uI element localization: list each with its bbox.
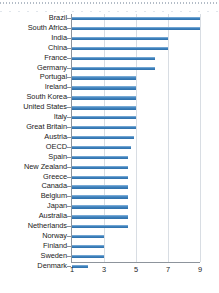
y-axis-tick <box>67 196 71 197</box>
category-label-austria: Austria <box>0 132 67 142</box>
category-label-sweden: Sweden <box>0 251 67 261</box>
bar-france <box>72 57 155 60</box>
x-tick-label-7: 7 <box>158 265 178 274</box>
y-axis-tick <box>67 18 71 19</box>
y-axis-tick <box>67 87 71 88</box>
bar-italy <box>72 116 136 119</box>
bar-germany <box>72 67 155 70</box>
y-axis-tick <box>67 167 71 168</box>
bar-austria <box>72 136 134 139</box>
bar-sweden <box>72 255 104 258</box>
bar-netherlands <box>72 225 128 228</box>
bar-brazil <box>72 17 200 20</box>
y-axis-tick <box>67 117 71 118</box>
bar-australia <box>72 215 128 218</box>
scan-artifact-secondary <box>0 11 219 12</box>
category-label-great-britain: Great Britain <box>0 122 67 132</box>
bar-spain <box>72 156 128 159</box>
y-axis-tick <box>67 28 71 29</box>
y-axis-tick <box>67 77 71 78</box>
category-label-belgium: Belgium <box>0 191 67 201</box>
y-axis-tick <box>67 206 71 207</box>
x-tick-label-1: 1 <box>62 265 82 274</box>
y-axis-tick <box>67 246 71 247</box>
category-label-australia: Australia <box>0 211 67 221</box>
bar-ireland <box>72 86 136 89</box>
category-label-portugal: Portugal <box>0 72 67 82</box>
y-axis-tick <box>67 97 71 98</box>
y-axis-tick <box>67 177 71 178</box>
bar-united-states <box>72 106 136 109</box>
y-axis-tick <box>67 107 71 108</box>
bar-rows: BrazilSouth AfricaIndiaChinaFranceGerman… <box>0 14 219 262</box>
bar-south-africa <box>72 27 200 30</box>
y-axis-tick <box>67 48 71 49</box>
category-label-canada: Canada <box>0 181 67 191</box>
category-label-denmark: Denmark <box>0 261 67 271</box>
category-label-germany: Germany <box>0 63 67 73</box>
category-label-india: India <box>0 33 67 43</box>
category-label-japan: Japan <box>0 201 67 211</box>
x-tick-label-3: 3 <box>94 265 114 274</box>
category-label-finland: Finland <box>0 241 67 251</box>
bar-china <box>72 47 168 50</box>
y-axis-tick <box>67 38 71 39</box>
bar-japan <box>72 205 128 208</box>
category-label-greece: Greece <box>0 172 67 182</box>
bar-belgium <box>72 195 128 198</box>
category-label-new-zealand: New Zealand <box>0 162 67 172</box>
category-label-netherlands: Netherlands <box>0 221 67 231</box>
y-axis-tick <box>67 226 71 227</box>
category-label-france: France <box>0 53 67 63</box>
scan-artifact-top <box>0 2 219 4</box>
bar-chart: BrazilSouth AfricaIndiaChinaFranceGerman… <box>0 0 219 293</box>
y-axis-tick <box>67 137 71 138</box>
category-label-south-africa: South Africa <box>0 23 67 33</box>
category-label-italy: Italy <box>0 112 67 122</box>
category-label-united-states: United States <box>0 102 67 112</box>
category-label-ireland: Ireland <box>0 82 67 92</box>
x-tick-label-5: 5 <box>126 265 146 274</box>
y-axis-tick <box>67 127 71 128</box>
y-axis-tick <box>67 147 71 148</box>
y-axis-tick <box>67 256 71 257</box>
bar-india <box>72 37 168 40</box>
y-axis-tick <box>67 186 71 187</box>
category-label-norway: Norway <box>0 231 67 241</box>
bar-norway <box>72 235 104 238</box>
y-axis-tick <box>67 68 71 69</box>
x-tick-label-9: 9 <box>190 265 210 274</box>
bar-greece <box>72 176 128 179</box>
bar-south-korea <box>72 96 136 99</box>
bar-canada <box>72 185 128 188</box>
category-label-oecd: OECD <box>0 142 67 152</box>
y-axis-tick <box>67 157 71 158</box>
category-label-brazil: Brazil <box>0 13 67 23</box>
y-axis-tick <box>67 58 71 59</box>
y-axis-tick <box>67 216 71 217</box>
category-label-china: China <box>0 43 67 53</box>
bar-portugal <box>72 76 136 79</box>
bar-oecd <box>72 146 131 149</box>
bar-finland <box>72 245 104 248</box>
bar-great-britain <box>72 126 136 129</box>
bar-new-zealand <box>72 166 128 169</box>
category-label-south-korea: South Korea <box>0 92 67 102</box>
y-axis-tick <box>67 236 71 237</box>
category-label-spain: Spain <box>0 152 67 162</box>
